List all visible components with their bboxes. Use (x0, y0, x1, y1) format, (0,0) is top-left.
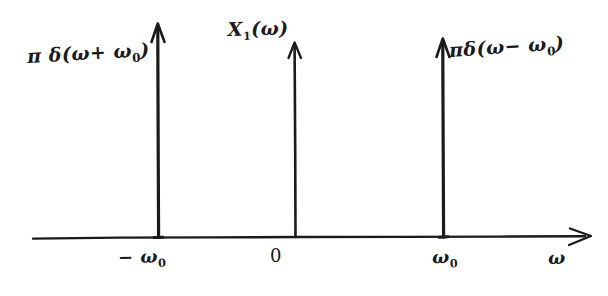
tick-label-positive-subscript: 0 (450, 257, 458, 270)
label-impulse-right-tail: ) (554, 31, 565, 54)
tick-label-negative-subscript: 0 (158, 257, 166, 270)
label-impulse-left-text: π δ(ω+ ω (27, 39, 133, 67)
label-vertical-axis: X1(ω) (228, 19, 289, 43)
impulse-left-stem (158, 28, 159, 237)
tick-label-negative-text: − ω (118, 245, 159, 267)
label-impulse-left-tail: ) (139, 38, 150, 60)
axis-label-omega: ω (548, 249, 566, 268)
figure-canvas: π δ(ω+ ω0) X1(ω) πδ(ω− ω0) − ω0 0 ω0 ω (0, 0, 608, 296)
tick-label-negative-omega0: − ω0 (118, 247, 166, 270)
tick-label-positive-omega0: ω0 (432, 248, 458, 271)
label-vertical-axis-tail: (ω) (251, 17, 289, 40)
impulse-right-stem (443, 44, 444, 237)
vertical-axis (295, 46, 296, 237)
horizontal-axis (33, 236, 585, 238)
tick-label-zero: 0 (270, 247, 281, 265)
label-vertical-axis-text: X (227, 18, 243, 40)
tick-label-positive-text: ω (432, 246, 450, 268)
